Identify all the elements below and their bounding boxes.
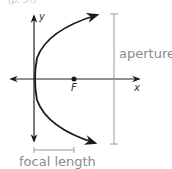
focus-label: F — [71, 83, 77, 93]
cropped-caption-fragment: (p. 5?) — [8, 0, 37, 5]
aperture-label: aperture — [119, 47, 172, 60]
diagram-canvas — [0, 0, 172, 169]
parabola-diagram: (p. 5?) y x F aperture focal length — [0, 0, 172, 169]
y-axis-label: y — [39, 12, 45, 22]
focal-length-dimension — [34, 147, 74, 153]
focal-length-label: focal length — [19, 155, 96, 168]
focus-point — [72, 77, 77, 82]
x-axis-label: x — [134, 83, 140, 93]
